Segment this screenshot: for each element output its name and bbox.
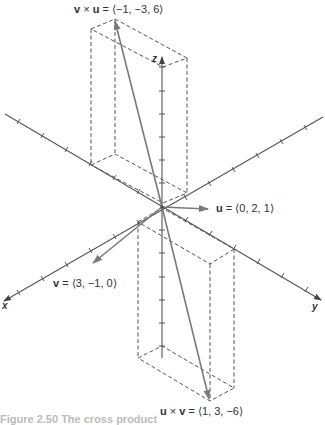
label-v: v = ⟨3, −1, 0⟩: [53, 277, 117, 290]
vector-name: u: [160, 405, 167, 417]
vector-value: = ⟨3, −1, 0⟩: [62, 277, 116, 289]
vector-name: v: [74, 3, 80, 15]
x-axis-label: x: [2, 300, 8, 311]
label-u-cross-v: u × v = ⟨1, 3, −6⟩: [160, 405, 243, 418]
origin-point: [160, 205, 163, 208]
cross-operator: ×: [170, 405, 176, 417]
vector-name: v: [179, 405, 185, 417]
cross-operator: ×: [83, 3, 89, 15]
y-axis-label: y: [312, 301, 318, 312]
vector-value: = ⟨0, 2, 1⟩: [226, 202, 274, 214]
figure-caption: Figure 2.50 The cross product: [0, 413, 157, 425]
vector-u-cross-v: [162, 207, 209, 399]
vector-v: [93, 207, 162, 263]
vector-u: [162, 207, 208, 209]
vector-name: u: [93, 3, 100, 15]
top-dashed-box: [91, 19, 187, 203]
vector-v-cross-u: [115, 21, 162, 207]
vector-name: u: [216, 202, 223, 214]
vectors: [93, 21, 209, 399]
label-v-cross-u: v × u = ⟨−1, −3, 6⟩: [74, 3, 163, 16]
z-axis-label: z: [152, 53, 157, 64]
vector-value: = ⟨1, 3, −6⟩: [188, 405, 242, 417]
vector-name: v: [53, 277, 59, 289]
vector-value: = ⟨−1, −3, 6⟩: [102, 3, 163, 15]
label-u: u = ⟨0, 2, 1⟩: [216, 202, 274, 215]
